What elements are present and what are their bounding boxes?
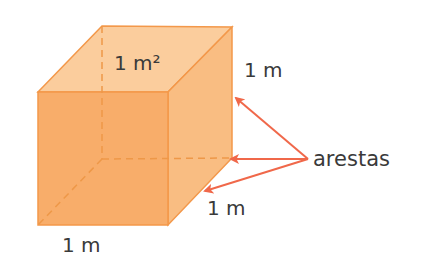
cube-diagram: 1 m² 1 m arestas 1 m 1 m — [0, 0, 435, 273]
label-depth-edge: 1 m — [207, 196, 246, 220]
label-bottom-edge: 1 m — [62, 233, 101, 257]
arrow-vertical-edge — [236, 98, 308, 159]
label-callout: arestas — [313, 147, 390, 171]
label-right-edge: 1 m — [244, 58, 283, 82]
label-top-area: 1 m² — [114, 51, 161, 75]
